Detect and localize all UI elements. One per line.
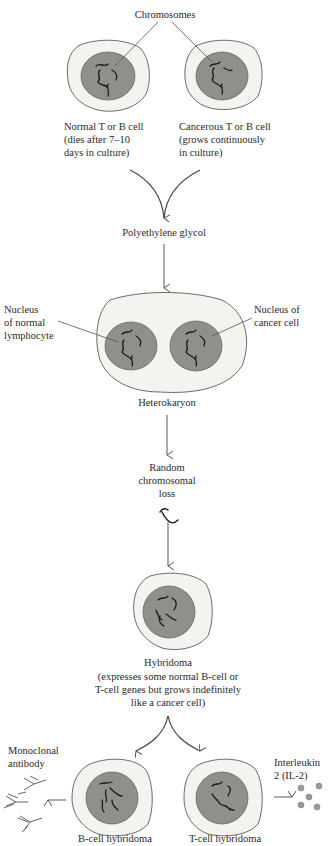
chromosome-loss-label: Random chromosomal loss	[117, 461, 217, 500]
t-cell-hybridoma-label: T-cell hybridoma	[170, 832, 280, 845]
heterokaryon-cell	[97, 293, 247, 393]
monoclonal-antibody-label: Monoclonal antibody	[8, 744, 59, 770]
chromosomes-label: Chromosomes	[120, 8, 210, 21]
b-cell-hybridoma	[72, 759, 152, 836]
cancer-cell-label: Cancerous T or B cell (grows continuousl…	[179, 120, 271, 159]
nucleus-normal-label: Nucleus of normal lymphocyte	[4, 303, 54, 342]
interleukin-label: Interleukin 2 (IL-2)	[274, 756, 320, 782]
heterokaryon-label: Heterokaryon	[117, 396, 217, 409]
chromosome-loss-icon	[160, 509, 178, 523]
il2-particles	[298, 783, 322, 810]
nucleus-cancer-label: Nucleus of cancer cell	[254, 303, 300, 329]
normal-cell-label: Normal T or B cell (dies after 7–10 days…	[64, 120, 144, 159]
hybridoma-cell	[134, 573, 213, 649]
normal-cell	[67, 40, 149, 111]
hybridoma-label: Hybridoma	[118, 656, 218, 669]
b-cell-hybridoma-label: B-cell hybridoma	[60, 832, 170, 845]
hybridoma-diagram	[0, 0, 328, 846]
cancer-cell	[185, 40, 262, 109]
fusion-agent-label: Polyethylene glycol	[104, 226, 224, 239]
t-cell-hybridoma	[184, 759, 262, 836]
antibody-icons	[4, 776, 46, 832]
hybridoma-description: (expresses some normal B-cell or T-cell …	[70, 670, 266, 709]
